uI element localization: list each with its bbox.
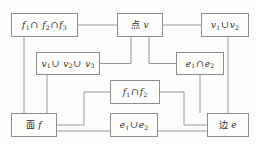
node-e1e2_int[interactable]: e1∩e2 <box>176 52 224 75</box>
node-point_v[interactable]: 点 v <box>117 13 163 37</box>
node-label-point_v: 点 v <box>131 20 149 29</box>
node-label-e1e2_int: e1∩e2 <box>186 58 215 68</box>
node-label-face_f: 面 f <box>26 120 42 129</box>
node-label-v1v2v3: v1∪ v2∪ v3 <box>41 58 94 68</box>
node-label-edge_e: 边 e <box>219 120 237 129</box>
connector-f1f2-to-face_f <box>57 92 110 125</box>
connector-point_v-to-v1v2v3 <box>100 37 131 64</box>
node-f1f2f3[interactable]: f1∩ f2∩f3 <box>11 13 78 37</box>
node-edge_e[interactable]: 边 e <box>207 113 249 137</box>
node-label-f1f2f3: f1∩ f2∩f3 <box>22 20 67 30</box>
node-label-e1e2_uni: e1∪e2 <box>120 120 149 130</box>
node-e1e2_uni[interactable]: e1∪e2 <box>110 113 158 137</box>
node-v1v2[interactable]: v1∪v2 <box>201 13 249 37</box>
connector-point_v-to-e1e2_int <box>149 37 176 64</box>
node-face_f[interactable]: 面 f <box>11 113 57 137</box>
node-label-f1f2: f1∩f2 <box>123 87 148 97</box>
node-v1v2v3[interactable]: v1∪ v2∪ v3 <box>36 52 100 75</box>
node-f1f2[interactable]: f1∩f2 <box>110 80 160 104</box>
diagram-canvas: f1∩ f2∩f3点 vv1∪v2v1∪ v2∪ v3e1∩e2f1∩f2面 f… <box>0 0 258 146</box>
node-label-v1v2: v1∪v2 <box>211 20 239 30</box>
